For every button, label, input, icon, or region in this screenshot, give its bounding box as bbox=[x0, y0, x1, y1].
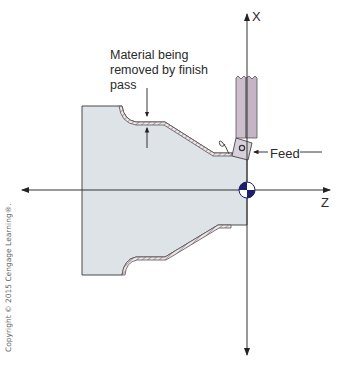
chip bbox=[219, 141, 229, 154]
x-axis-label: X bbox=[252, 9, 261, 24]
cutting-insert bbox=[232, 138, 252, 160]
material-callout-label: Material being removed by finish pass bbox=[110, 48, 220, 93]
z-axis-label: Z bbox=[321, 195, 329, 210]
feed-label: Feed bbox=[270, 146, 300, 161]
copyright-notice: Copyright © 2015 Cengage Learning®. bbox=[4, 203, 13, 352]
origin-marker bbox=[239, 182, 255, 198]
